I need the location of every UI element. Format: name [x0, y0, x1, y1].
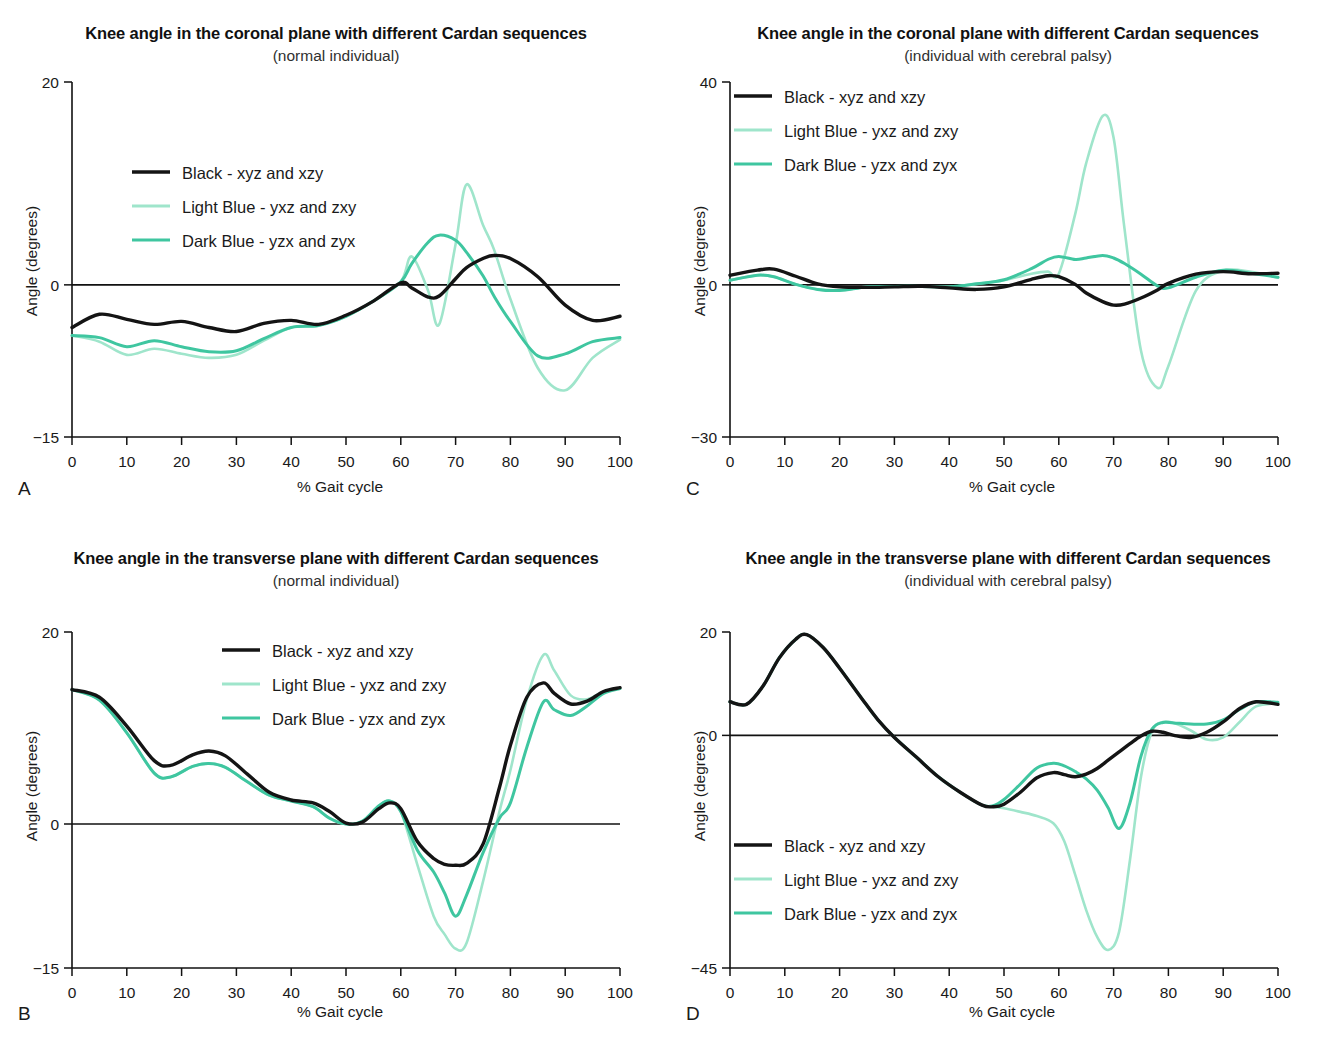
- x-tick-label: 20: [831, 984, 849, 1001]
- panel-b-ylabel: Angle (degrees): [23, 716, 41, 856]
- legend: Black - xyz and xzyLight Blue - yxz and …: [222, 642, 447, 728]
- x-tick-label: 10: [776, 984, 794, 1001]
- series-line-dark-blue: [730, 634, 1278, 828]
- panel-d-letter: D: [686, 1003, 700, 1025]
- x-tick-label: 0: [68, 984, 77, 1001]
- x-tick-label: 0: [68, 453, 77, 470]
- x-tick-label: 0: [726, 453, 735, 470]
- panel-b-xlabel: % Gait cycle: [190, 1003, 490, 1021]
- legend-label-black: Black - xyz and xzy: [182, 164, 324, 182]
- x-tick-label: 70: [1105, 453, 1123, 470]
- panel-d-xlabel: % Gait cycle: [862, 1003, 1162, 1021]
- x-tick-label: 60: [1050, 984, 1068, 1001]
- x-tick-label: 100: [607, 984, 633, 1001]
- x-tick-label: 10: [776, 453, 794, 470]
- legend-label-dark-blue: Dark Blue - yzx and zyx: [784, 156, 958, 174]
- x-tick-label: 40: [283, 984, 301, 1001]
- x-tick-label: 50: [337, 453, 355, 470]
- y-tick-label: 0: [50, 816, 59, 833]
- x-tick-label: 80: [502, 453, 520, 470]
- panel-c-plot: 0102030405060708090100−30040Black - xyz …: [672, 0, 1344, 525]
- x-tick-label: 90: [557, 984, 575, 1001]
- x-tick-label: 50: [995, 984, 1013, 1001]
- legend-label-light-blue: Light Blue - yxz and zxy: [784, 871, 959, 889]
- panel-a: Knee angle in the coronal plane with dif…: [0, 0, 672, 525]
- y-tick-label: 20: [700, 624, 718, 641]
- legend-label-dark-blue: Dark Blue - yzx and zyx: [784, 905, 958, 923]
- x-tick-label: 60: [1050, 453, 1068, 470]
- x-tick-label: 40: [941, 984, 959, 1001]
- legend-label-light-blue: Light Blue - yxz and zxy: [272, 676, 447, 694]
- legend: Black - xyz and xzyLight Blue - yxz and …: [734, 88, 959, 174]
- panel-c-ylabel: Angle (degrees): [691, 191, 709, 331]
- figure-grid: Knee angle in the coronal plane with dif…: [0, 0, 1344, 1051]
- x-tick-label: 20: [173, 453, 191, 470]
- x-tick-label: 20: [173, 984, 191, 1001]
- x-tick-label: 90: [557, 453, 575, 470]
- y-tick-label: −15: [33, 429, 59, 446]
- legend-label-light-blue: Light Blue - yxz and zxy: [784, 122, 959, 140]
- legend-label-black: Black - xyz and xzy: [272, 642, 414, 660]
- x-tick-label: 10: [118, 453, 136, 470]
- x-tick-label: 0: [726, 984, 735, 1001]
- x-tick-label: 100: [1265, 453, 1291, 470]
- x-tick-label: 80: [502, 984, 520, 1001]
- y-tick-label: 40: [700, 74, 718, 91]
- series-line-light-blue: [72, 654, 620, 951]
- x-tick-label: 30: [886, 453, 904, 470]
- x-tick-label: 30: [886, 984, 904, 1001]
- panel-a-letter: A: [18, 478, 31, 500]
- panel-d-ylabel: Angle (degrees): [691, 716, 709, 856]
- panel-b: Knee angle in the transverse plane with …: [0, 525, 672, 1051]
- x-tick-label: 100: [1265, 984, 1291, 1001]
- y-tick-label: −15: [33, 960, 59, 977]
- x-tick-label: 80: [1160, 984, 1178, 1001]
- panel-d: Knee angle in the transverse plane with …: [672, 525, 1344, 1051]
- series-line-light-blue: [730, 634, 1278, 950]
- x-tick-label: 70: [1105, 984, 1123, 1001]
- legend-label-dark-blue: Dark Blue - yzx and zyx: [182, 232, 356, 250]
- x-tick-label: 20: [831, 453, 849, 470]
- panel-a-xlabel: % Gait cycle: [190, 478, 490, 496]
- x-tick-label: 70: [447, 453, 465, 470]
- x-tick-label: 40: [283, 453, 301, 470]
- panel-a-ylabel: Angle (degrees): [23, 191, 41, 331]
- legend-label-black: Black - xyz and xzy: [784, 88, 926, 106]
- panel-c-xlabel: % Gait cycle: [862, 478, 1162, 496]
- panel-b-plot: 0102030405060708090100−15020Black - xyz …: [0, 525, 672, 1051]
- x-tick-label: 30: [228, 984, 246, 1001]
- y-tick-label: −30: [691, 429, 718, 446]
- x-tick-label: 10: [118, 984, 136, 1001]
- x-tick-label: 90: [1215, 984, 1233, 1001]
- y-tick-label: 0: [50, 277, 59, 294]
- x-tick-label: 100: [607, 453, 633, 470]
- panel-c: Knee angle in the coronal plane with dif…: [672, 0, 1344, 525]
- x-tick-label: 80: [1160, 453, 1178, 470]
- x-tick-label: 30: [228, 453, 246, 470]
- panel-b-letter: B: [18, 1003, 31, 1025]
- series-line-black: [730, 634, 1278, 807]
- x-tick-label: 40: [941, 453, 959, 470]
- y-tick-label: 20: [42, 74, 60, 91]
- x-tick-label: 60: [392, 453, 410, 470]
- y-tick-label: −45: [691, 960, 717, 977]
- x-tick-label: 50: [337, 984, 355, 1001]
- series-line-black: [72, 255, 620, 331]
- panel-d-plot: 0102030405060708090100−45020Black - xyz …: [672, 525, 1344, 1051]
- y-tick-label: 0: [708, 727, 717, 744]
- panel-a-plot: 0102030405060708090100−15020Black - xyz …: [0, 0, 672, 525]
- x-tick-label: 50: [995, 453, 1013, 470]
- legend-label-dark-blue: Dark Blue - yzx and zyx: [272, 710, 446, 728]
- panel-c-letter: C: [686, 478, 700, 500]
- x-tick-label: 90: [1215, 453, 1233, 470]
- legend-label-black: Black - xyz and xzy: [784, 837, 926, 855]
- y-tick-label: 20: [42, 624, 60, 641]
- legend-label-light-blue: Light Blue - yxz and zxy: [182, 198, 357, 216]
- series-line-dark-blue: [72, 235, 620, 358]
- legend: Black - xyz and xzyLight Blue - yxz and …: [734, 837, 959, 923]
- x-tick-label: 70: [447, 984, 465, 1001]
- x-tick-label: 60: [392, 984, 410, 1001]
- legend: Black - xyz and xzyLight Blue - yxz and …: [132, 164, 357, 250]
- y-tick-label: 0: [708, 277, 717, 294]
